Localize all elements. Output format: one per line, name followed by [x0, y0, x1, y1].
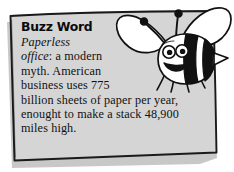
body-line-roman: miles high.: [21, 121, 77, 135]
body-line: business uses 775: [21, 78, 217, 92]
body-line-roman: business uses 775: [21, 78, 110, 92]
body-line-italic: Paperless: [21, 35, 70, 49]
page-title: Buzz Word: [21, 19, 217, 34]
body-line: office: a modern: [21, 49, 217, 63]
card-text: Buzz Word Paperless office: a modern myt…: [21, 19, 217, 136]
buzz-word-card: Buzz Word Paperless office: a modern myt…: [0, 0, 234, 172]
body-line: miles high.: [21, 121, 217, 135]
bee-antenna-right-tip: [175, 10, 182, 17]
body-line: myth. American: [21, 64, 217, 78]
body-line: billion sheets of paper per year,: [21, 93, 217, 107]
body-line-roman: : a modern: [49, 49, 102, 63]
body-line-roman: billion sheets of paper per year,: [21, 93, 178, 107]
body-line: enought to make a stack 48,900: [21, 107, 217, 121]
body-line-roman: myth. American: [21, 64, 101, 78]
body-line-roman: enought to make a stack 48,900: [21, 107, 179, 121]
body-line-italic: office: [21, 49, 49, 63]
body-line: Paperless: [21, 35, 217, 49]
